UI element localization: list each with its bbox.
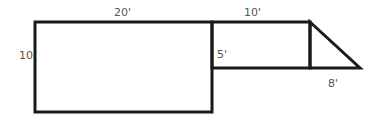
label-small-width: 10' bbox=[244, 6, 261, 19]
label-large-width: 20' bbox=[114, 6, 131, 19]
large-rectangle bbox=[35, 22, 212, 112]
right-triangle bbox=[310, 22, 360, 68]
floor-plan-diagram: 20' 10 10' 5' 8' bbox=[0, 0, 382, 122]
label-triangle-base: 8' bbox=[328, 77, 338, 90]
label-large-height: 10 bbox=[19, 49, 33, 62]
small-rectangle bbox=[212, 22, 310, 68]
label-small-height: 5' bbox=[217, 48, 227, 61]
